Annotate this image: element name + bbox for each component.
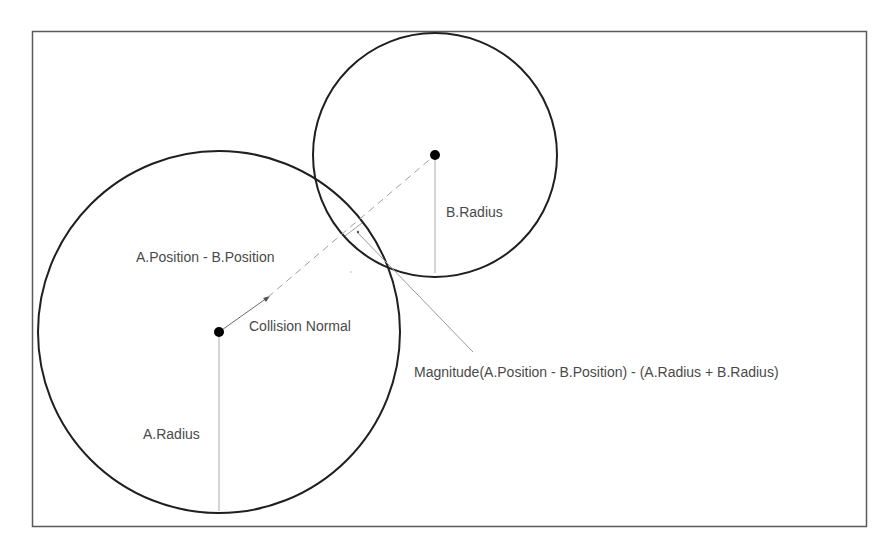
collision-diagram	[0, 0, 895, 549]
circle-b-center-point	[430, 150, 440, 160]
collision-normal-label: Collision Normal	[249, 319, 351, 333]
overlap-tick-dot	[357, 231, 359, 233]
position-difference-label: A.Position - B.Position	[136, 250, 275, 264]
diagram-frame	[33, 32, 867, 527]
circle-a-center-point	[214, 327, 224, 337]
stray-dot	[350, 271, 352, 273]
position-difference-dashed-line	[268, 155, 435, 297]
penetration-leader-line	[358, 233, 473, 352]
b-radius-label: B.Radius	[446, 205, 503, 219]
penetration-formula-label: Magnitude(A.Position - B.Position) - (A.…	[414, 365, 779, 379]
collision-normal-arrowhead	[263, 296, 270, 302]
a-radius-label: A.Radius	[143, 427, 200, 441]
